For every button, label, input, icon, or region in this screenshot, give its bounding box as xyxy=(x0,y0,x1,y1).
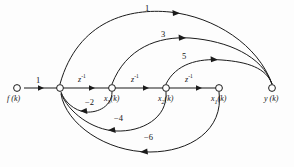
node-y xyxy=(269,85,276,92)
gain-label-forward-3: 3 xyxy=(161,30,165,39)
arrowhead-x1-to-x4-gain-6 xyxy=(140,149,148,155)
edge-x4-to-y-gain1 xyxy=(60,11,272,84)
arrowhead-x4-to-y-gain1 xyxy=(172,10,180,16)
gain-label-input: 1 xyxy=(36,76,40,85)
gain-label-feedback-6: −6 xyxy=(144,133,153,142)
gain-label-delay-3: z-1 xyxy=(185,74,193,84)
node-f xyxy=(14,85,21,92)
node-x1 xyxy=(216,85,223,92)
node-x4 xyxy=(57,85,64,92)
arrowhead-x2-to-y-gain5 xyxy=(211,56,218,62)
node-label-y: y (k) xyxy=(264,95,278,103)
node-label-x3: x3(k) xyxy=(104,95,119,105)
arrowhead-x4-to-x3 xyxy=(89,85,95,91)
gain-label-feedback-4: −4 xyxy=(114,114,123,123)
gain-label-feedback-2: −2 xyxy=(85,98,94,107)
node-label-f: f (k) xyxy=(7,95,20,103)
edge-x2-to-y-gain5 xyxy=(166,60,272,84)
gain-label-forward-1: 1 xyxy=(145,4,149,13)
arrowhead-x3-to-x2 xyxy=(143,85,149,91)
gain-label-delay-2: z-1 xyxy=(131,74,139,84)
arrowhead-f-to-x4 xyxy=(38,85,44,91)
arrowhead-x3-to-x4-gain-2 xyxy=(80,108,87,114)
node-x2 xyxy=(163,85,170,92)
arrowhead-x3-to-y-gain3 xyxy=(179,35,186,41)
arrowhead-x2-to-x4-gain-4 xyxy=(108,127,116,133)
node-label-x1: x1(k) xyxy=(211,95,226,105)
gain-label-delay-1: z-1 xyxy=(78,74,86,84)
gain-label-forward-5: 5 xyxy=(182,52,186,61)
signal-flow-graph-diagram: f (k) x3(k) x2(k) x1(k) y (k) 1 z-1 z-1 … xyxy=(0,0,294,167)
arrowhead-x2-to-x1 xyxy=(196,85,202,91)
node-x3 xyxy=(109,85,116,92)
node-label-x2: x2(k) xyxy=(158,95,173,105)
